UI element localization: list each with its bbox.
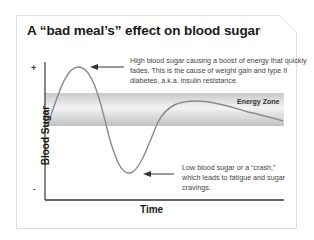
arrow-low	[143, 171, 174, 177]
y-axis-label: Blood Sugar	[40, 96, 51, 176]
x-axis-label: Time	[140, 204, 163, 215]
y-axis-plus-marker: +	[31, 63, 36, 73]
chart-title: A “bad meal’s” effect on blood sugar	[27, 23, 260, 38]
annotation-low: Low blood sugar or a “crash,” which lead…	[182, 163, 292, 193]
y-axis-minus-marker: -	[33, 184, 36, 193]
arrow-high	[90, 64, 124, 70]
annotation-high: High blood sugar causing a boost of ener…	[130, 56, 314, 86]
energy-zone-label: Energy Zone	[237, 98, 279, 105]
